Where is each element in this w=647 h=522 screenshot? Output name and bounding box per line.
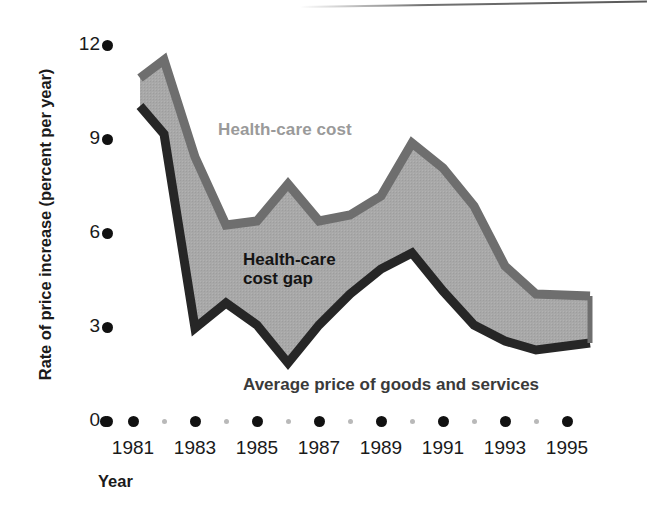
x-minor-dot-1990 [410, 419, 415, 424]
series-label-health-care-cost: Health-care cost [218, 120, 352, 140]
x-tick-label-1989: 1989 [351, 437, 411, 459]
x-tick-dot-1981 [128, 416, 139, 427]
series-label-cost-gap: Health-carecost gap [243, 250, 336, 288]
x-tick-label-1995: 1995 [537, 437, 597, 459]
x-tick-dot-1995 [562, 416, 573, 427]
x-tick-dot-origin [100, 416, 111, 427]
series-label-average-price: Average price of goods and services [243, 375, 539, 395]
x-tick-dot-1983 [190, 416, 201, 427]
chart-figure: Rate of price increase (percent per year… [0, 0, 647, 522]
x-minor-dot-1984 [224, 419, 229, 424]
cost-gap-line-1: Health-care [243, 250, 336, 269]
x-minor-dot-1994 [534, 419, 539, 424]
x-tick-dot-1989 [376, 416, 387, 427]
x-tick-label-1981: 1981 [103, 437, 163, 459]
x-tick-dot-1991 [438, 416, 449, 427]
x-minor-dot-1986 [286, 419, 291, 424]
x-minor-dot-1982 [162, 419, 167, 424]
x-tick-dot-1993 [500, 416, 511, 427]
x-tick-label-1991: 1991 [413, 437, 473, 459]
x-minor-dot-1992 [472, 419, 477, 424]
x-tick-label-1987: 1987 [289, 437, 349, 459]
x-axis-title: Year [98, 472, 133, 491]
x-tick-label-1993: 1993 [475, 437, 535, 459]
x-tick-label-1983: 1983 [165, 437, 225, 459]
x-minor-dot-1988 [348, 419, 353, 424]
x-tick-dot-1987 [314, 416, 325, 427]
x-tick-dot-1985 [252, 416, 263, 427]
x-tick-label-1985: 1985 [227, 437, 287, 459]
cost-gap-line-2: cost gap [243, 269, 313, 288]
